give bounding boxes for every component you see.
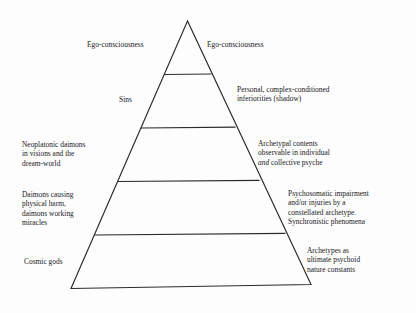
tier-2-left-label: Neoplatonic daimons in visions and the d… <box>22 140 132 168</box>
tier-0-left-label: Ego-consciousness <box>87 40 177 49</box>
tier-4-right-label: Archetypes as ultimate psychoid nature c… <box>307 246 416 274</box>
tier-4-left-label: Cosmic gods <box>24 257 104 266</box>
tier-2-right-line-2: observable in individual <box>258 148 330 157</box>
tier-2-right-label: Archetypal contentsobservable in individ… <box>258 139 408 167</box>
tier-2-right-line-3-rest: collective psyche <box>269 158 322 167</box>
tier-3-right-label: Psychosomatic impairment and/or injuries… <box>288 189 416 227</box>
tier-2-right-line-1: Archetypal contents <box>258 139 318 148</box>
tier-3-left-label: Daimons causing physical harm, daimons w… <box>22 190 127 228</box>
pyramid-diagram-page: Ego-consciousness Ego-consciousness Sins… <box>0 0 416 313</box>
tier-2-right-line-3-italic: and <box>258 158 269 167</box>
tier-divider-1 <box>164 74 211 75</box>
tier-1-left-label: Sins <box>119 95 169 104</box>
tier-1-right-label: Personal, complex-conditioned inferiorit… <box>237 85 387 104</box>
tier-divider-2 <box>141 127 236 128</box>
tier-0-right-label: Ego-consciousness <box>207 40 317 49</box>
